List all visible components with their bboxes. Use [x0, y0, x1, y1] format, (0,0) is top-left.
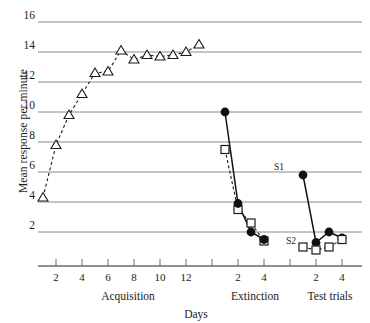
y-tick-labels: 16 14 12 10 8 6 4 2 [24, 9, 36, 231]
x-tick-ext-2: 2 [235, 271, 241, 283]
marker-triangle [90, 68, 100, 77]
series-markers-acquisition [38, 40, 204, 202]
x-tick-test-2: 2 [313, 271, 319, 283]
series-line-extinction-s2 [225, 150, 264, 242]
y-tick-16: 16 [24, 9, 36, 21]
marker-circle [221, 108, 230, 117]
marker-circle [325, 228, 334, 237]
annotation-s1: S1 [274, 162, 284, 172]
marker-triangle [38, 193, 48, 202]
x-tick-ext-4: 4 [261, 271, 267, 283]
plot-area: 16 14 12 10 8 6 4 2 [0, 0, 370, 323]
marker-triangle [168, 50, 178, 59]
marker-triangle [77, 89, 87, 98]
series-line-test-s2 [303, 240, 342, 251]
marker-square [299, 243, 307, 251]
marker-triangle [51, 140, 61, 149]
series-line-extinction-s1 [225, 112, 264, 240]
x-ticks-test [316, 259, 342, 266]
marker-circle [247, 228, 256, 237]
marker-triangle [103, 67, 113, 76]
marker-triangle [194, 40, 204, 49]
section-label-test-trials: Test trials [308, 290, 353, 302]
x-tick-test-4: 4 [339, 271, 345, 283]
marker-square [221, 146, 229, 154]
x-ticks-acquisition [56, 259, 212, 266]
x-tick-acq-10: 10 [155, 271, 167, 283]
y-tick-8: 8 [29, 129, 35, 141]
x-tick-labels: 2 4 6 8 10 12 2 4 2 4 [53, 271, 345, 283]
marker-triangle [142, 50, 152, 59]
series-markers-test-s2 [299, 236, 346, 255]
marker-square [325, 243, 333, 251]
marker-square [338, 236, 346, 244]
y-tick-14: 14 [24, 39, 36, 51]
y-tick-12: 12 [24, 69, 36, 81]
x-tick-acq-6: 6 [105, 271, 111, 283]
marker-triangle [64, 110, 74, 119]
x-ticks-extinction [238, 259, 290, 266]
y-tick-4: 4 [29, 189, 35, 201]
section-label-acquisition: Acquisition [101, 290, 155, 303]
x-tick-acq-8: 8 [131, 271, 137, 283]
y-tick-10: 10 [24, 99, 36, 111]
marker-square [312, 246, 320, 254]
marker-square [247, 219, 255, 227]
marker-triangle [116, 46, 126, 55]
series-markers-extinction-s2 [221, 146, 268, 246]
marker-circle [260, 235, 269, 244]
x-tick-acq-12: 12 [181, 271, 192, 283]
y-tick-6: 6 [29, 159, 35, 171]
annotation-s2: S2 [286, 236, 296, 246]
x-tick-acq-2: 2 [53, 271, 59, 283]
gridlines [38, 22, 362, 232]
x-axis-title: Days [184, 308, 208, 321]
series-line-acquisition [43, 45, 199, 198]
y-tick-2: 2 [29, 219, 35, 231]
section-label-extinction: Extinction [231, 290, 279, 302]
marker-circle [234, 199, 243, 208]
section-labels: Acquisition Extinction Test trials [101, 290, 353, 303]
chart-figure: Mean response per minute 16 14 12 10 8 6… [0, 0, 370, 323]
marker-circle [299, 171, 308, 180]
marker-triangle [181, 47, 191, 56]
x-tick-acq-4: 4 [79, 271, 85, 283]
